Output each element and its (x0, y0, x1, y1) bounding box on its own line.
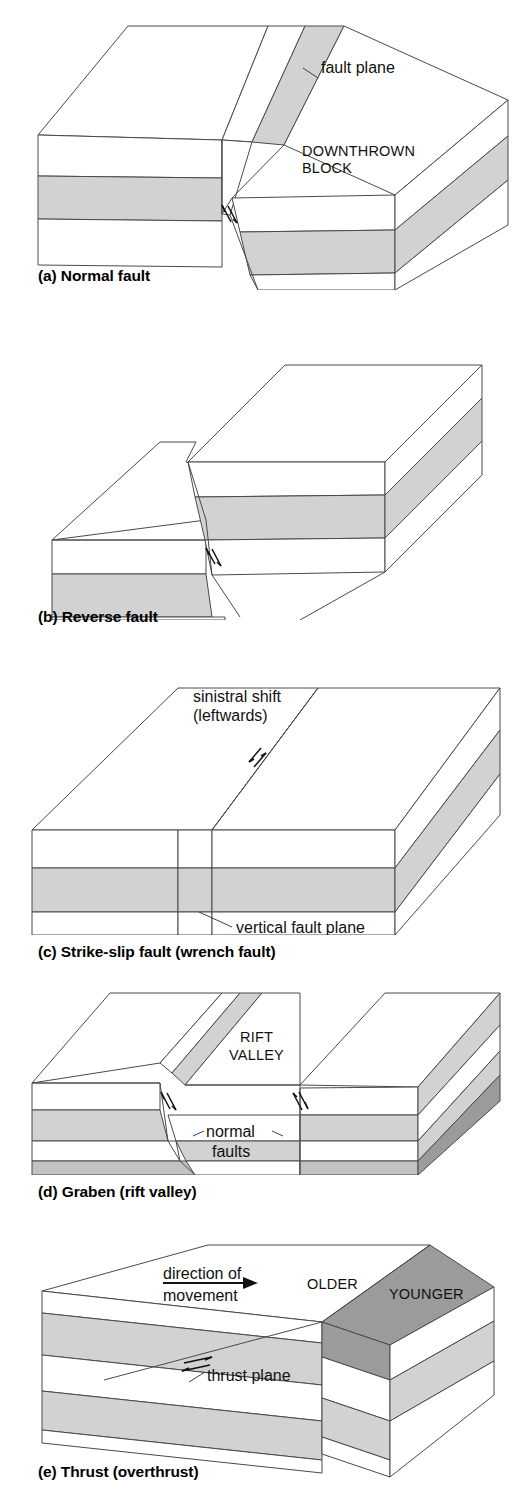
downthrown-block-label-line2: BLOCK (302, 160, 352, 176)
right-horst-front-stratum-1-d (300, 1087, 418, 1115)
right-block-front-stratum-1-b (188, 462, 385, 497)
downthrown-block-label-line1: DOWNTHROWN (302, 143, 415, 159)
caption-graben: (d) Graben (rift valley) (38, 1183, 197, 1201)
sinistral-shift-label-line1: sinistral shift (193, 688, 282, 705)
left-block-front-stratum-1-b (52, 540, 206, 574)
front-block-front-stratum-1-c (212, 830, 395, 868)
thrust-plane-label: thrust plane (207, 1367, 291, 1384)
right-horst-front-stratum-3-d (300, 1141, 418, 1161)
diagram-strike-slip-fault: sinistral shift (leftwards) vertical fau… (0, 640, 522, 935)
vertical-fault-plane-c (178, 830, 212, 935)
normal-faults-label-line1: normal (206, 1123, 255, 1140)
graben-front-stratum-3-d (186, 1161, 300, 1175)
right-block-front-stratum-3-b (205, 538, 385, 575)
left-horst-front-stratum-4-d (32, 1161, 195, 1175)
caption-strike-slip-fault: (c) Strike-slip fault (wrench fault) (38, 943, 276, 961)
right-horst-front-stratum-2-d (300, 1115, 418, 1141)
left-horst-front-stratum-3-d (32, 1141, 180, 1161)
left-block-front-stratum-1 (38, 135, 222, 178)
right-horst-front-stratum-4-d (300, 1161, 418, 1175)
left-block-front-stratum-3 (38, 219, 222, 267)
right-block-front-stratum-2 (240, 230, 395, 275)
rift-valley-label-line1: RIFT (240, 1029, 273, 1045)
diagram-normal-fault: fault plane DOWNTHROWN BLOCK (0, 0, 522, 290)
right-block-front-stratum-1 (232, 195, 395, 232)
back-block-front-stratum-3-c (32, 912, 178, 935)
direction-of-movement-label-line2: movement (163, 1287, 238, 1304)
thrust-block-e (42, 1245, 494, 1477)
right-block-b (188, 365, 482, 620)
younger-label: YOUNGER (389, 1286, 464, 1302)
right-block-front-stratum-2-b (195, 495, 385, 540)
right-horst-d (300, 993, 500, 1175)
caption-thrust: (e) Thrust (overthrust) (38, 1463, 198, 1481)
direction-of-movement-label-line1: direction of (163, 1265, 242, 1282)
right-block-front-stratum-3 (250, 273, 395, 290)
diagram-graben: RIFT VALLEY normal faults (0, 975, 522, 1175)
diagram-thrust: direction of movement OLDER YOUNGER thru… (0, 1225, 522, 1495)
front-block-front-stratum-2-c (212, 868, 395, 912)
sinistral-shift-label-line2: (leftwards) (193, 707, 268, 724)
hanging-wall-base-edge-b (300, 572, 385, 620)
left-horst-front-stratum-2-d (32, 1110, 168, 1141)
rift-valley-label-line2: VALLEY (229, 1047, 284, 1063)
older-label: OLDER (307, 1276, 358, 1292)
caption-normal-fault: (a) Normal fault (38, 267, 150, 285)
left-horst-front-stratum-1-d (32, 1083, 160, 1110)
diagram-reverse-fault (0, 320, 522, 620)
vertical-fault-plane-label: vertical fault plane (236, 919, 365, 935)
fault-plane-grey-c (178, 868, 212, 912)
fault-plane-white-upper-c (178, 830, 212, 868)
normal-faults-label-line2: faults (212, 1143, 250, 1160)
back-block-front-stratum-2-c (32, 868, 178, 912)
back-block-front-stratum-1-c (32, 830, 178, 868)
left-block-top-face-b (52, 442, 206, 540)
fault-types-figure: fault plane DOWNTHROWN BLOCK (a) Normal … (0, 0, 522, 1509)
fault-plane-label: fault plane (321, 59, 395, 76)
caption-reverse-fault: (b) Reverse fault (38, 608, 158, 626)
left-block-front-stratum-2 (38, 176, 222, 221)
